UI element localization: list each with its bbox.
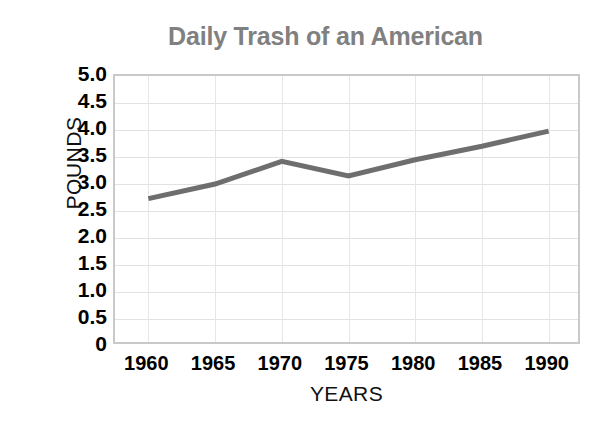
y-axis-tick-label: 3.0 <box>41 171 107 192</box>
x-axis-title: YEARS <box>113 382 580 406</box>
y-axis-tick-label: 4.0 <box>41 117 107 138</box>
chart-title: Daily Trash of an American <box>0 22 609 51</box>
y-axis-tick-label: 1.5 <box>41 252 107 273</box>
chart-figure: Daily Trash of an American POUNDS 5.04.5… <box>0 0 609 426</box>
y-axis-tick-label: 4.5 <box>41 90 107 111</box>
plot-area <box>113 74 580 344</box>
y-axis-tick-label: 0.5 <box>41 306 107 327</box>
line-series <box>115 76 582 346</box>
y-axis-tick-label: 0 <box>41 333 107 354</box>
y-axis-tick-label: 5.0 <box>41 63 107 84</box>
y-axis-tick-labels: 5.04.54.03.53.02.52.01.51.00.50 <box>39 74 107 344</box>
y-axis-tick-label: 1.0 <box>41 279 107 300</box>
y-axis-tick-label: 3.5 <box>41 144 107 165</box>
line-series-path <box>148 131 548 199</box>
x-axis-tick-label: 1990 <box>507 352 587 374</box>
y-axis-tick-label: 2.5 <box>41 198 107 219</box>
y-axis-tick-label: 2.0 <box>41 225 107 246</box>
x-axis-tick-labels: 1960196519701975198019851990 <box>113 352 580 378</box>
